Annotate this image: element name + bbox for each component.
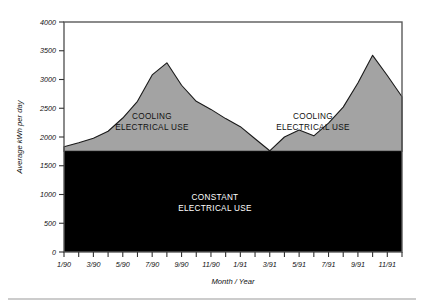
cooling-right-label-line2: ELECTRICAL USE [276, 123, 350, 132]
y-tick-label: 0 [52, 248, 56, 257]
cooling-left-label-line2: ELECTRICAL USE [115, 123, 189, 132]
x-tick-label: 11/90 [202, 260, 219, 269]
x-tick-label: 9/91 [351, 260, 365, 269]
energy-use-area-chart: 05001000150020002500300035004000 1/903/9… [0, 0, 424, 303]
x-tick-label: 7/91 [322, 260, 336, 269]
x-tick-label: 11/91 [379, 260, 396, 269]
y-tick-label: 4000 [40, 18, 56, 27]
x-tick-label: 1/90 [57, 260, 71, 269]
y-tick-label: 1500 [40, 161, 56, 170]
cooling-left-label-line1: COOLING [132, 112, 172, 121]
x-tick-label: 9/90 [175, 260, 189, 269]
x-axis-ticks: 1/903/905/907/909/9011/901/913/915/917/9… [57, 252, 402, 269]
x-tick-label: 5/90 [116, 260, 130, 269]
x-tick-label: 3/90 [86, 260, 100, 269]
x-tick-label: 1/91 [233, 260, 247, 269]
y-axis-ticks: 05001000150020002500300035004000 [39, 18, 64, 257]
x-tick-label: 5/91 [292, 260, 306, 269]
x-tick-label: 7/90 [145, 260, 159, 269]
y-tick-label: 3000 [40, 75, 56, 84]
x-tick-label: 3/91 [263, 260, 277, 269]
x-axis-title: Month / Year [212, 277, 255, 286]
chart-figure: 05001000150020002500300035004000 1/903/9… [0, 0, 424, 303]
constant-label-line1: CONSTANT [192, 193, 239, 202]
constant-label-line2: ELECTRICAL USE [178, 204, 252, 213]
y-tick-label: 3500 [40, 46, 56, 55]
y-tick-label: 2500 [39, 104, 56, 113]
cooling-right-label-line1: COOLING [293, 112, 333, 121]
y-tick-label: 500 [44, 219, 56, 228]
y-tick-label: 2000 [39, 133, 56, 142]
y-tick-label: 1000 [40, 190, 56, 199]
y-axis-title: Average kWh per day [15, 99, 24, 174]
